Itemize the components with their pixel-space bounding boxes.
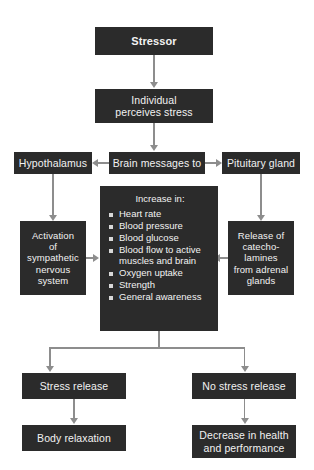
node-catecholamines-release-label: Release of catecho- lamines from adrenal… bbox=[228, 230, 294, 286]
line-5: glands bbox=[247, 275, 276, 286]
node-brain-messages-to: Brain messages to bbox=[109, 152, 205, 174]
connector-branch-right-drop bbox=[244, 347, 246, 367]
list-item: Blood glucose bbox=[108, 232, 212, 243]
connector-pituitary-to-catecholamines bbox=[260, 174, 262, 216]
line-3: sympathetic bbox=[27, 252, 79, 263]
node-individual-perceives-stress-label: Individual perceives stress bbox=[95, 94, 213, 119]
list-item: Heart rate bbox=[108, 208, 212, 219]
connector-brain-to-hypothalamus bbox=[98, 162, 109, 164]
connector-stressor-to-individual bbox=[153, 55, 155, 83]
line-3: lamines bbox=[244, 252, 277, 263]
connector-branch-left-drop bbox=[49, 347, 51, 367]
line-1: Release of bbox=[238, 230, 284, 241]
node-catecholamines-release: Release of catecho- lamines from adrenal… bbox=[228, 221, 294, 295]
node-stressor: Stressor bbox=[95, 27, 213, 55]
node-no-stress-release: No stress release bbox=[192, 373, 296, 399]
node-increase-in-list: Increase in: Heart rate Blood pressure B… bbox=[100, 186, 218, 331]
connector-brain-to-pituitary bbox=[205, 162, 216, 164]
arrowhead-left-hypothalamus bbox=[92, 159, 98, 167]
node-body-relaxation: Body relaxation bbox=[22, 425, 126, 451]
node-hypothalamus: Hypothalamus bbox=[14, 152, 92, 174]
arrowhead-down-no-stress-release bbox=[241, 366, 249, 372]
list-item: Blood flow to active muscles and brain bbox=[108, 244, 212, 266]
arrowhead-down-body-relaxation bbox=[70, 418, 78, 424]
node-hypothalamus-label: Hypothalamus bbox=[14, 157, 92, 169]
line-5: system bbox=[38, 275, 69, 286]
connector-hypothalamus-to-sympathetic bbox=[52, 174, 54, 216]
line-1: Decrease in health bbox=[199, 429, 288, 441]
connector-increase-stub bbox=[158, 331, 160, 348]
line-2: of bbox=[49, 241, 57, 252]
node-decrease-health-performance: Decrease in health and performance bbox=[192, 425, 296, 458]
line-1: Activation bbox=[32, 230, 74, 241]
arrowhead-down-decrease bbox=[241, 418, 249, 424]
arrowhead-down-individual bbox=[150, 82, 158, 88]
line-1: Individual bbox=[131, 94, 176, 106]
line-2: perceives stress bbox=[115, 106, 192, 118]
node-stressor-label: Stressor bbox=[95, 35, 213, 48]
line-2: catecho- bbox=[242, 241, 279, 252]
line-4: from adrenal bbox=[234, 264, 289, 275]
arrowhead-down-brain bbox=[150, 145, 158, 151]
line-2: and performance bbox=[204, 442, 285, 454]
connector-individual-to-brain bbox=[153, 123, 155, 146]
node-sympathetic-activation: Activation of sympathetic nervous system bbox=[20, 221, 86, 295]
arrowhead-right-increase bbox=[93, 254, 99, 262]
node-decrease-health-performance-label: Decrease in health and performance bbox=[192, 429, 296, 454]
arrowhead-down-stress-release bbox=[46, 366, 54, 372]
node-sympathetic-activation-label: Activation of sympathetic nervous system bbox=[20, 230, 86, 286]
node-body-relaxation-label: Body relaxation bbox=[22, 432, 126, 444]
connector-branch-horizontal bbox=[49, 347, 245, 349]
node-pituitary-gland-label: Pituitary gland bbox=[222, 157, 300, 169]
node-brain-messages-to-label: Brain messages to bbox=[109, 157, 205, 169]
increase-in-items: Heart rate Blood pressure Blood glucose … bbox=[108, 208, 212, 302]
connector-catecholamines-to-increase bbox=[220, 257, 228, 259]
flowchart-diagram: Stressor Individual perceives stress Bra… bbox=[0, 0, 314, 470]
node-individual-perceives-stress: Individual perceives stress bbox=[95, 89, 213, 123]
node-pituitary-gland: Pituitary gland bbox=[222, 152, 300, 174]
connector-no-stress-release-to-decrease bbox=[244, 399, 246, 419]
node-stress-release: Stress release bbox=[22, 373, 126, 399]
node-stress-release-label: Stress release bbox=[22, 380, 126, 392]
list-item: General awareness bbox=[108, 291, 212, 302]
node-no-stress-release-label: No stress release bbox=[192, 380, 296, 392]
list-item: Oxygen uptake bbox=[108, 267, 212, 278]
connector-stress-release-to-body-relaxation bbox=[73, 399, 75, 419]
line-4: nervous bbox=[36, 264, 71, 275]
list-item: Blood pressure bbox=[108, 220, 212, 231]
increase-in-heading: Increase in: bbox=[108, 193, 212, 204]
list-item: Strength bbox=[108, 279, 212, 290]
